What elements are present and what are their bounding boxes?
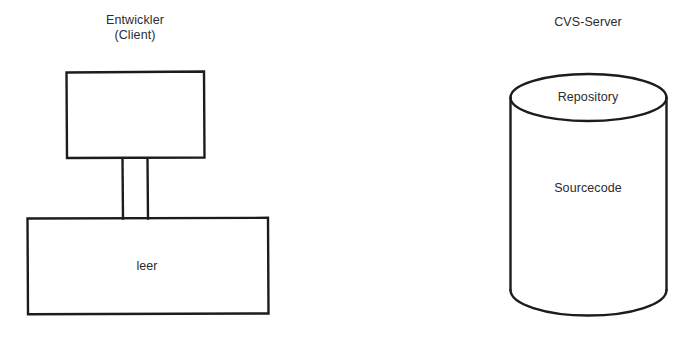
client-stand-right-edge <box>148 159 149 219</box>
client-stand-left-edge <box>123 159 124 219</box>
server-caption-label: CVS-Server <box>508 15 668 30</box>
diagram-artwork <box>0 0 690 338</box>
diagram-canvas: Entwickler (Client) leer CVS-Server Repo… <box>0 0 690 338</box>
client-caption-label: Entwickler <box>55 13 215 28</box>
repository-label: Repository <box>508 90 668 105</box>
client-screen-rect <box>67 72 205 159</box>
client-workstation-group <box>28 72 269 315</box>
client-base-label: leer <box>67 259 227 274</box>
client-caption-sublabel: (Client) <box>55 28 215 43</box>
cylinder-bottom-arc <box>511 290 667 316</box>
sourcecode-label: Sourcecode <box>508 181 668 196</box>
